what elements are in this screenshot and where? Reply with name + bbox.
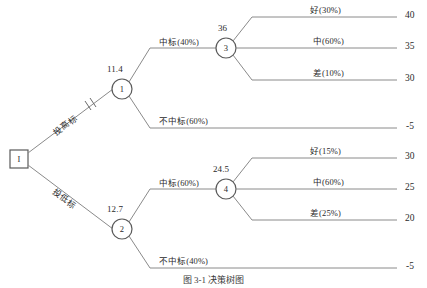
root-node-label: I (10, 155, 28, 164)
expected-value-node-3: 36 (218, 24, 227, 33)
expected-value-node-4: 24.5 (213, 165, 229, 174)
chance-node-3-label: 3 (216, 44, 236, 53)
figure-caption: 图 3-1 决策树图 (0, 273, 427, 286)
branch-label-lower-good: 好(15%) (310, 147, 341, 156)
payoff-upper-lose: -5 (406, 122, 414, 132)
payoff-upper-mid: 35 (405, 42, 415, 52)
decision-tree-figure: I 投高标 投低标 1 2 3 4 11.4 12.7 36 24.5 中标(4… (0, 0, 427, 288)
payoff-lower-good: 30 (405, 152, 415, 162)
branch-label-upper-mid: 中(60%) (313, 37, 344, 46)
payoff-upper-bad: 30 (405, 74, 415, 84)
branch-label-node2-lose: 不中标(40%) (159, 257, 208, 266)
edge-node1-win (129, 48, 216, 82)
branch-label-upper-good: 好(30%) (310, 6, 341, 15)
branch-label-upper-bad: 差(10%) (313, 69, 344, 78)
expected-value-node-2: 12.7 (107, 205, 123, 214)
edge-node2-win (129, 189, 216, 222)
branch-label-lower-bad: 差(25%) (310, 209, 341, 218)
expected-value-node-1: 11.4 (107, 65, 123, 74)
prune-mark-stroke-1 (85, 101, 91, 110)
branch-label-node2-win: 中标(60%) (159, 179, 199, 188)
branch-label-node1-win: 中标(40%) (159, 38, 199, 47)
branch-label-node1-lose: 不中标(60%) (159, 117, 208, 126)
payoff-lower-mid: 25 (405, 183, 415, 193)
payoff-lower-bad: 20 (405, 214, 415, 224)
chance-node-2-label: 2 (112, 225, 132, 234)
payoff-lower-lose: -5 (406, 262, 414, 272)
payoff-upper-good: 40 (405, 11, 415, 21)
decision-tree-canvas (0, 0, 427, 288)
chance-node-1-label: 1 (112, 85, 132, 94)
chance-node-4-label: 4 (216, 185, 236, 194)
branch-label-lower-mid: 中(60%) (313, 178, 344, 187)
